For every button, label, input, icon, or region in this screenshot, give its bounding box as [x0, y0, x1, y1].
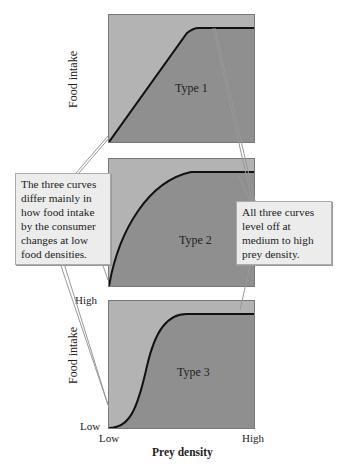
- panel-type-1: Type 1: [108, 14, 255, 143]
- x-tick-low: Low: [99, 432, 119, 444]
- x-tick-high: High: [242, 432, 264, 444]
- type-2-curve: [109, 159, 254, 286]
- callout-left: The three curves differ mainly in how fo…: [15, 173, 111, 265]
- y-axis-label-bottom: Food intake: [66, 327, 81, 384]
- callout-right: All three curves level off at medium to …: [236, 201, 332, 265]
- y-tick-high: High: [75, 294, 97, 306]
- y-tick-low: Low: [80, 420, 100, 432]
- x-axis-label: Prey density: [152, 446, 213, 458]
- panel-type-2: Type 2: [108, 158, 255, 287]
- type-1-curve: [109, 15, 254, 142]
- type-2-label: Type 2: [179, 233, 212, 248]
- type-1-label: Type 1: [175, 81, 208, 96]
- type-3-label: Type 3: [177, 365, 210, 380]
- y-axis-label-top: Food intake: [66, 51, 81, 108]
- panel-type-3: Type 3: [108, 300, 255, 429]
